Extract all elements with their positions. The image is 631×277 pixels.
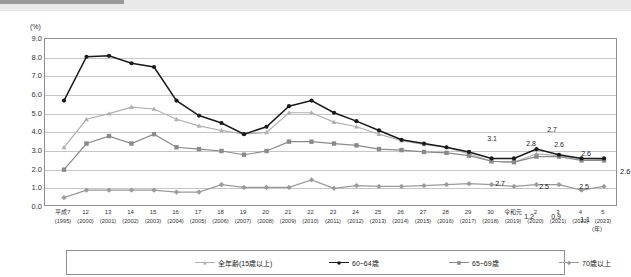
x-axis-tick-label: 14(2002): [122, 208, 138, 225]
x-axis-tick-label: 29(2017): [460, 208, 476, 225]
data-point-marker: [332, 111, 336, 115]
circle-marker-icon: [329, 259, 349, 267]
data-value-label: 1.1: [580, 216, 590, 223]
data-point-marker: [264, 149, 268, 153]
x-axis-tick-label: 22(2010): [302, 208, 318, 225]
data-point-marker: [399, 148, 403, 152]
data-point-marker: [129, 141, 133, 145]
data-point-marker: [444, 151, 448, 155]
data-point-marker: [264, 185, 269, 190]
data-point-marker: [61, 195, 66, 200]
diamond-marker-icon: [559, 259, 579, 267]
data-point-marker: [444, 145, 448, 149]
data-point-marker: [242, 132, 246, 136]
data-point-marker: [556, 182, 561, 187]
data-point-marker: [376, 184, 381, 189]
data-point-marker: [512, 160, 516, 164]
legend-item-4[interactable]: 70歳以上: [559, 258, 611, 268]
y-axis-tick-label: 6.0: [2, 90, 42, 99]
data-point-marker: [106, 188, 111, 193]
legend-label: 65~69歳: [472, 258, 499, 268]
x-axis-tick-label: 19(2007): [235, 208, 251, 225]
triangle-marker-icon: [195, 259, 215, 267]
y-axis-tick-label: 7.0: [2, 71, 42, 80]
data-point-marker: [129, 61, 133, 65]
data-point-marker: [84, 188, 89, 193]
data-point-marker: [567, 260, 571, 264]
x-axis-tick-label: 16(2004): [167, 208, 183, 225]
series-layer: [45, 39, 618, 207]
data-point-marker: [331, 186, 336, 191]
data-point-marker: [174, 145, 178, 149]
data-point-marker: [467, 153, 471, 157]
data-point-marker: [354, 183, 359, 188]
x-axis-tick-label: 5(2023): [595, 208, 611, 225]
square-marker-icon: [449, 259, 469, 267]
data-value-label: 2.7: [495, 180, 505, 187]
data-point-marker: [219, 121, 223, 125]
x-axis-tick-label: 15(2003): [145, 208, 161, 225]
data-value-label: 1.2: [524, 213, 534, 220]
y-axis-tick-label: 2.0: [2, 165, 42, 174]
y-axis-tick-label: 4.0: [2, 127, 42, 136]
data-value-label: 2.8: [526, 140, 536, 147]
x-axis-tick-label: 27(2015): [415, 208, 431, 225]
data-point-marker: [377, 128, 381, 132]
data-point-marker: [377, 147, 381, 151]
data-point-marker: [174, 189, 179, 194]
x-axis-unit-label: (年): [592, 224, 602, 233]
y-axis-unit-label: (%): [30, 23, 41, 30]
data-point-marker: [286, 185, 291, 190]
data-point-marker: [197, 147, 201, 151]
data-point-marker: [354, 119, 358, 123]
y-axis-tick-label: 1.0: [2, 183, 42, 192]
legend-label: 70歳以上: [582, 258, 611, 268]
data-point-marker: [309, 139, 313, 143]
data-value-label: 2.5: [539, 183, 549, 190]
top-dark-bar: [0, 0, 124, 4]
x-axis-tick-label: 23(2011): [325, 208, 341, 225]
legend-item-1[interactable]: 全年齢(15歳以上): [195, 258, 272, 268]
data-point-marker: [466, 181, 471, 186]
legend-label: 60~64歳: [352, 258, 379, 268]
data-point-marker: [309, 177, 314, 182]
data-point-marker: [489, 156, 493, 160]
data-point-marker: [511, 184, 516, 189]
data-value-label: 2.7: [547, 126, 557, 133]
data-point-marker: [196, 189, 201, 194]
x-axis-tick-label: 13(2001): [100, 208, 116, 225]
y-axis-tick-label: 9.0: [2, 34, 42, 43]
data-point-marker: [242, 153, 246, 157]
series-line: [64, 134, 604, 169]
x-axis-tick-label: 30(2018): [482, 208, 498, 225]
data-point-marker: [287, 104, 291, 108]
data-point-marker: [197, 113, 201, 117]
data-value-label: 3.1: [487, 135, 497, 142]
data-point-marker: [444, 182, 449, 187]
data-point-marker: [337, 261, 341, 265]
y-axis-tick-label: 3.0: [2, 146, 42, 155]
y-axis-tick-label: 5.0: [2, 109, 42, 118]
data-point-marker: [151, 188, 156, 193]
data-point-marker: [62, 99, 66, 103]
data-point-marker: [84, 141, 88, 145]
data-point-marker: [107, 54, 111, 58]
data-point-marker: [354, 143, 358, 147]
data-point-marker: [467, 150, 471, 154]
legend-item-2[interactable]: 60~64歳: [329, 258, 379, 268]
chart-legend: 全年齢(15歳以上)60~64歳65~69歳70歳以上: [66, 250, 565, 275]
y-axis-tick-label: 8.0: [2, 53, 42, 62]
legend-item-3[interactable]: 65~69歳: [449, 258, 499, 268]
data-point-marker: [579, 156, 583, 160]
data-point-marker: [399, 138, 403, 142]
data-point-marker: [557, 153, 561, 157]
chart-container: (%) 0.01.02.03.04.05.06.07.08.09.0 平成7(1…: [0, 11, 631, 277]
x-axis-tick-label: 18(2006): [212, 208, 228, 225]
y-axis-tick-label: 0.0: [2, 202, 42, 211]
data-point-marker: [489, 182, 494, 187]
data-point-marker: [152, 132, 156, 136]
data-point-marker: [107, 134, 111, 138]
data-value-label: 2.6: [554, 141, 564, 148]
data-point-marker: [287, 139, 291, 143]
data-point-marker: [84, 55, 88, 59]
